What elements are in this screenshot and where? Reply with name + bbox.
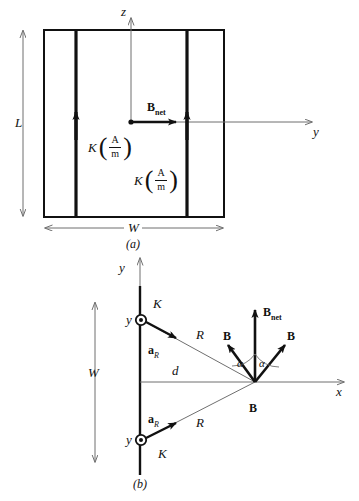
unit-denominator-1: m [109,149,121,160]
unit-fraction-2: A m [155,168,167,192]
sheet-current-label-2: K ( A m ) [134,168,178,192]
current-symbol-2: K [134,174,143,187]
source-top-coordinate-label: y [126,313,132,326]
current-out-of-page-dot-bottom [139,438,143,442]
unit-numerator-1: A [110,135,121,146]
current-out-of-page-dot-top [139,318,143,322]
radius-label-bottom: R [196,416,204,429]
dimension-L-label: L [15,116,22,129]
aR-subscript-bottom: R [154,420,159,429]
left-paren-1: ( [99,137,108,158]
aR-subscript-top: R [154,351,159,360]
source-top-current-label: K [153,297,162,310]
distance-d-label: d [172,364,179,377]
y-axis-label: y [313,125,319,138]
panel-a-caption: (a) [126,238,140,250]
physics-figure: z y L W Bnet K ( A m ) K ( A m ) (a) y x… [0,0,359,501]
bnet-subscript-a: net [155,108,166,117]
b-bnet-label: Bnet [263,303,282,322]
b-field-label-left: B [223,330,231,342]
source-bottom-current-label: K [158,447,167,460]
figure-vector-graphics [0,0,359,501]
b-dimension-W-label: W [88,366,99,379]
bnet-subscript-b: net [271,313,282,322]
unit-vector-aR-top [146,322,176,338]
b-x-axis-label: x [336,385,342,398]
source-top-unit-vector-label: aR [148,341,159,360]
unit-numerator-2: A [156,168,167,179]
dimension-W-label-a: W [128,221,139,234]
angle-label-left: α [237,358,243,369]
bnet-symbol-b: B [263,305,271,319]
panel-b-caption: (b) [133,478,147,490]
source-bottom-unit-vector-label: aR [148,410,159,429]
unit-denominator-2: m [155,182,167,193]
current-symbol-1: K [88,141,97,154]
radius-label-top: R [196,328,204,341]
angle-label-right: α [259,358,265,369]
z-axis-label: z [121,5,126,18]
right-paren-2: ) [169,170,178,191]
b-field-label-right: B [287,330,295,342]
sheet-current-label-1: K ( A m ) [88,135,132,159]
source-bottom-coordinate-label: y [126,433,132,446]
bnet-label-a: Bnet [147,98,166,117]
b-y-axis-label: y [119,261,125,274]
bnet-symbol-a: B [147,100,155,114]
left-paren-2: ( [145,170,154,191]
b-field-label-bottom: B [249,402,257,414]
unit-fraction-1: A m [109,135,121,159]
right-paren-1: ) [123,137,132,158]
